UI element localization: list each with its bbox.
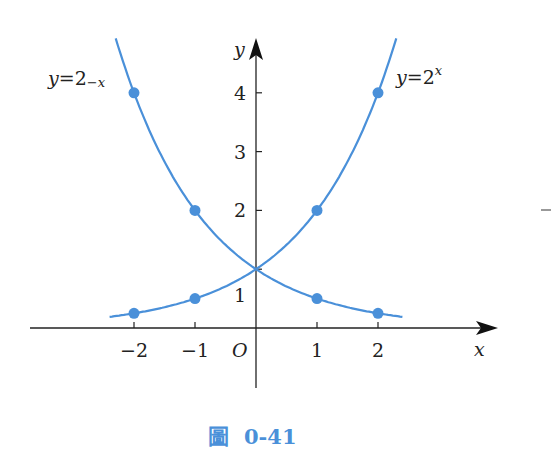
y-tick-label: 3 <box>234 141 246 163</box>
y-axis-label: y <box>233 38 245 60</box>
data-point <box>373 308 384 319</box>
curve-label-2-x: y=2x <box>395 63 443 88</box>
data-point <box>129 87 140 98</box>
y-tick-label: 4 <box>234 82 246 104</box>
tick-labels: −2−1121234 <box>120 82 384 361</box>
figure-caption-glyph: 圖 <box>208 424 229 449</box>
exponential-functions-chart: x y O −2−1121234 y=2−x y=2x 圖 0-41 <box>0 0 553 467</box>
data-point <box>190 293 201 304</box>
axes <box>30 38 498 388</box>
figure-caption-number: 0-41 <box>244 424 297 449</box>
curve-2-neg-x <box>116 38 403 317</box>
curve-2-x <box>110 38 397 317</box>
origin-label: O <box>232 339 248 361</box>
data-point <box>373 87 384 98</box>
data-point <box>312 205 323 216</box>
data-point <box>129 308 140 319</box>
data-point <box>190 205 201 216</box>
x-axis-label: x <box>474 338 485 360</box>
y-tick-label: 1 <box>234 284 246 306</box>
x-tick-label: 2 <box>372 339 384 361</box>
data-point <box>312 293 323 304</box>
curve-label-2-neg-x: y=2−x <box>47 67 106 90</box>
y-tick-label: 2 <box>234 199 246 221</box>
x-tick-label: 1 <box>311 339 323 361</box>
x-tick-label: −2 <box>120 339 148 361</box>
x-tick-label: −1 <box>181 339 209 361</box>
